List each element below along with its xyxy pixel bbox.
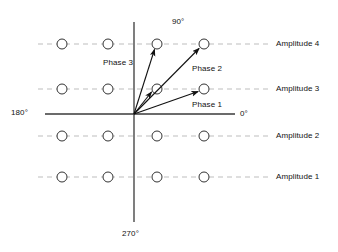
amplitude-label-4: Amplitude 4 <box>276 39 319 49</box>
constellation-point <box>199 39 209 49</box>
amplitude-label-1: Amplitude 1 <box>276 172 319 182</box>
constellation-point <box>152 39 162 49</box>
constellation-point <box>199 84 209 94</box>
phase-vectors <box>134 49 199 115</box>
constellation-point <box>152 84 162 94</box>
phase-vector-2 <box>134 49 199 115</box>
axis-label-270-degrees: 270° <box>122 229 139 239</box>
amplitude-label-2: Amplitude 2 <box>276 131 319 141</box>
diagram-canvas <box>0 0 338 252</box>
amplitude-gridlines <box>38 44 268 177</box>
amplitude-label-3: Amplitude 3 <box>276 84 319 94</box>
constellation-point <box>199 172 209 182</box>
axis-lines <box>45 22 235 222</box>
constellation-point <box>103 84 113 94</box>
constellation-point <box>57 39 67 49</box>
phase-label-1: Phase 1 <box>192 100 222 110</box>
axis-label-180-degrees: 180° <box>11 108 28 118</box>
constellation-point <box>57 84 67 94</box>
constellation-point <box>103 172 113 182</box>
constellation-point <box>103 39 113 49</box>
constellation-point <box>199 131 209 141</box>
constellation-point <box>57 172 67 182</box>
constellation-diagram-figure: 90° 270° 180° 0° Amplitude 4 Amplitude 3… <box>0 0 338 252</box>
constellation-point <box>152 172 162 182</box>
constellation-point <box>152 131 162 141</box>
phase-label-3: Phase 3 <box>103 58 133 68</box>
axis-label-0-degrees: 0° <box>240 109 248 119</box>
axis-label-90-degrees: 90° <box>172 17 184 27</box>
phase-label-2: Phase 2 <box>192 64 222 74</box>
constellation-point <box>103 131 113 141</box>
constellation-point <box>57 131 67 141</box>
